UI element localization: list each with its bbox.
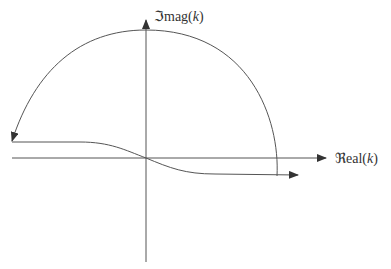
real-axis-label: ℜeal(k) bbox=[335, 150, 378, 167]
semicircle-arc bbox=[12, 30, 277, 176]
diagram-drawing bbox=[0, 0, 391, 269]
contour-diagram: ℑmag(k) ℜeal(k) bbox=[0, 0, 391, 269]
imaginary-axis-label: ℑmag(k) bbox=[154, 8, 204, 25]
